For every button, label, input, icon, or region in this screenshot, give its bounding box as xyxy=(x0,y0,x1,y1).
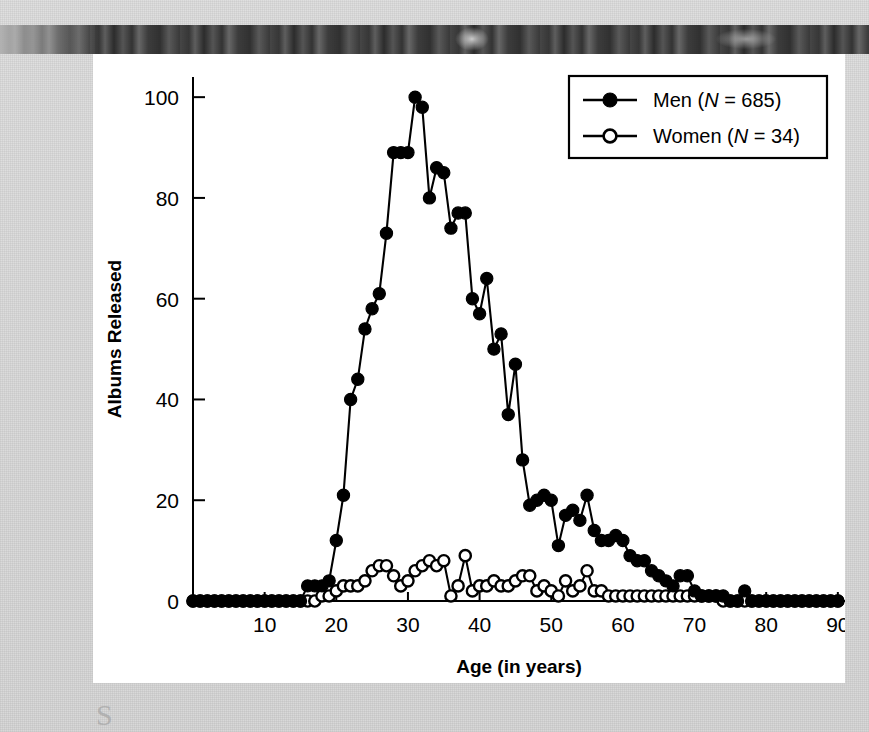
data-point-filled xyxy=(516,454,528,466)
scan-artifact-highlight-left xyxy=(0,25,95,54)
legend-label-n-value: = 34) xyxy=(748,125,800,147)
data-point-filled xyxy=(380,227,392,239)
data-point-filled xyxy=(488,343,500,355)
data-point-filled xyxy=(423,192,435,204)
line-chart: 020406080100102030405060708090Age (in ye… xyxy=(93,54,845,683)
scan-artifact-highlight-right xyxy=(716,29,776,49)
data-point-filled xyxy=(337,489,349,501)
x-tick-label: 60 xyxy=(611,613,634,636)
x-axis-title: Age (in years) xyxy=(456,656,582,677)
data-point-open xyxy=(453,580,464,591)
data-point-open xyxy=(359,575,370,586)
data-point-filled xyxy=(366,303,378,315)
data-point-filled xyxy=(681,570,693,582)
legend-label-name: Men ( xyxy=(653,89,704,111)
legend-marker-filled-circle xyxy=(603,93,617,107)
data-point-filled xyxy=(495,328,507,340)
y-tick-label: 20 xyxy=(156,489,179,512)
data-point-filled xyxy=(509,358,521,370)
data-point-filled xyxy=(416,101,428,113)
legend-label-name: Women ( xyxy=(653,125,734,147)
data-point-filled xyxy=(402,146,414,158)
x-tick-label: 20 xyxy=(325,613,348,636)
data-point-open xyxy=(438,555,449,566)
legend-label: Men (N = 685) xyxy=(653,89,781,111)
y-tick-label: 60 xyxy=(156,288,179,311)
legend-label-n-symbol: N xyxy=(734,125,749,147)
data-point-open xyxy=(524,570,535,581)
x-tick-label: 50 xyxy=(540,613,563,636)
legend-label-n-value: = 685) xyxy=(719,89,782,111)
data-point-filled xyxy=(552,539,564,551)
data-point-open xyxy=(560,575,571,586)
legend-label: Women (N = 34) xyxy=(653,125,800,147)
series-line xyxy=(193,97,838,601)
data-point-filled xyxy=(438,167,450,179)
y-tick-label: 0 xyxy=(167,590,179,613)
data-point-filled xyxy=(373,288,385,300)
data-point-filled xyxy=(323,575,335,587)
data-point-open xyxy=(445,590,456,601)
data-point-filled xyxy=(574,514,586,526)
y-axis-ticks: 020406080100 xyxy=(144,86,205,613)
data-point-filled xyxy=(473,308,485,320)
data-point-filled xyxy=(466,293,478,305)
scanned-figure-page: 020406080100102030405060708090Age (in ye… xyxy=(0,0,869,732)
data-point-filled xyxy=(832,595,844,607)
data-point-filled xyxy=(459,207,471,219)
legend-marker-open-circle xyxy=(604,130,617,143)
y-tick-label: 100 xyxy=(144,86,179,109)
x-tick-label: 40 xyxy=(468,613,491,636)
data-point-open xyxy=(581,565,592,576)
x-tick-label: 70 xyxy=(683,613,706,636)
scan-artifact-highlight-center xyxy=(455,27,489,51)
legend-label-n-symbol: N xyxy=(704,89,719,111)
data-point-filled xyxy=(545,494,557,506)
data-point-filled xyxy=(581,489,593,501)
figure-panel: 020406080100102030405060708090Age (in ye… xyxy=(93,54,845,683)
data-point-open xyxy=(381,560,392,571)
scan-artifact-strip xyxy=(0,25,869,54)
data-point-open xyxy=(402,575,413,586)
x-tick-label: 30 xyxy=(396,613,419,636)
data-point-filled xyxy=(617,534,629,546)
data-point-filled xyxy=(359,323,371,335)
data-point-filled xyxy=(481,272,493,284)
data-point-filled xyxy=(330,534,342,546)
y-tick-label: 80 xyxy=(156,187,179,210)
data-point-filled xyxy=(445,222,457,234)
page-smudge-glyph: S xyxy=(96,700,142,730)
data-point-open xyxy=(574,580,585,591)
data-point-filled xyxy=(352,373,364,385)
y-tick-label: 40 xyxy=(156,388,179,411)
data-point-filled xyxy=(294,595,306,607)
y-axis-title: Albums Released xyxy=(104,260,125,418)
data-point-open xyxy=(460,550,471,561)
x-tick-label: 80 xyxy=(755,613,778,636)
x-tick-label: 10 xyxy=(253,613,276,636)
data-point-open xyxy=(553,590,564,601)
data-point-filled xyxy=(502,408,514,420)
chart-legend: Men (N = 685)Women (N = 34) xyxy=(569,76,827,158)
data-point-open xyxy=(388,570,399,581)
data-point-filled xyxy=(345,393,357,405)
x-tick-label: 90 xyxy=(826,613,845,636)
series-men xyxy=(187,91,844,607)
